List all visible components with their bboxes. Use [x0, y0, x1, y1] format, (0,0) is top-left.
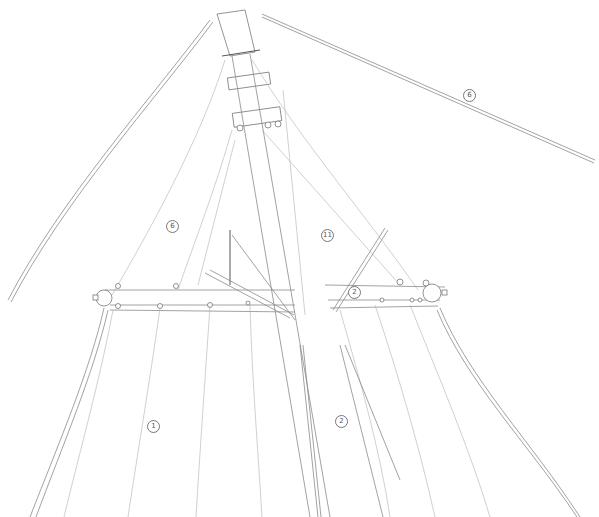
callout-6-top: 6 — [463, 89, 476, 102]
masthead — [217, 10, 282, 131]
sail-2-lower — [300, 305, 580, 517]
callout-1: 1 — [147, 420, 160, 433]
shroud-right — [262, 14, 595, 163]
sail-6-left — [112, 60, 235, 295]
callout-6-left: 6 — [166, 220, 179, 233]
callout-11: 11 — [321, 229, 334, 242]
callout-2-spreader: 2 — [348, 286, 361, 299]
shroud-left — [8, 20, 213, 302]
sail-11-right — [252, 60, 418, 315]
callout-2-sail: 2 — [335, 415, 348, 428]
sail-1-lower — [30, 304, 262, 517]
rig-drawing — [0, 0, 599, 517]
spreader-left — [93, 284, 295, 313]
struts — [205, 228, 388, 320]
